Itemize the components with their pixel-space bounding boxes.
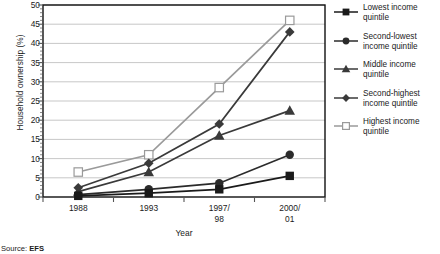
- data-point-open-square: [74, 168, 82, 176]
- data-point-filled-circle: [286, 151, 294, 159]
- series-line: [78, 111, 290, 192]
- legend-marker-filled-square-icon: [333, 4, 359, 16]
- data-point-filled-triangle: [285, 105, 296, 114]
- data-point-filled-square: [343, 9, 350, 16]
- legend-label: Highest income quintile: [363, 117, 440, 137]
- data-point-open-square: [145, 151, 153, 159]
- data-point-filled-circle: [343, 37, 350, 44]
- data-point-filled-diamond: [144, 158, 154, 168]
- data-point-open-square: [286, 16, 294, 24]
- data-point-open-square: [215, 83, 223, 91]
- data-point-filled-square: [286, 172, 294, 180]
- data-point-filled-square: [145, 189, 153, 197]
- legend-item[interactable]: Lowest income quintile: [333, 3, 440, 26]
- series-line: [78, 155, 290, 195]
- chart-legend: Lowest income quintileSecond-lowest inco…: [333, 3, 440, 146]
- legend-label: Second-highest income quintile: [363, 89, 440, 109]
- legend-label: Lowest income quintile: [363, 3, 440, 23]
- legend-item[interactable]: Second-lowest income quintile: [333, 32, 440, 55]
- source-label: Source:: [1, 244, 27, 253]
- data-point-filled-diamond: [342, 94, 350, 102]
- source-value: EFS: [29, 244, 44, 253]
- legend-marker-filled-triangle-icon: [333, 61, 359, 73]
- data-point-filled-square: [74, 192, 82, 200]
- legend-label: Second-lowest income quintile: [363, 32, 440, 52]
- legend-label: Middle income quintile: [363, 60, 440, 80]
- legend-marker-filled-diamond-icon: [333, 90, 359, 102]
- data-point-open-square: [343, 123, 350, 130]
- source-note: Source: EFS: [1, 244, 44, 253]
- data-point-filled-square: [215, 185, 223, 193]
- data-point-filled-triangle: [144, 167, 155, 176]
- chart-figure: Household ownership (%) Year 05101520253…: [0, 0, 440, 254]
- legend-marker-filled-circle-icon: [333, 33, 359, 45]
- legend-item[interactable]: Middle income quintile: [333, 60, 440, 83]
- legend-marker-open-square-icon: [333, 118, 359, 130]
- legend-item[interactable]: Second-highest income quintile: [333, 89, 440, 112]
- legend-item[interactable]: Highest income quintile: [333, 117, 440, 140]
